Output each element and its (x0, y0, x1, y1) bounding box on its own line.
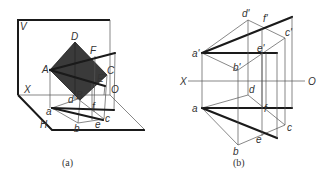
label-a-b: a (192, 103, 198, 114)
projector-b (78, 100, 80, 123)
label-E: E (97, 73, 104, 84)
label-X-b: X (179, 76, 187, 87)
label-b-prime: b' (233, 62, 242, 73)
diagram-canvas: V H X O D A B C E F a b c d e f (a) (0, 0, 326, 182)
label-e-b: e (256, 134, 262, 145)
caption-b: (b) (233, 157, 245, 169)
label-F: F (90, 45, 97, 56)
figure-b: X O a' d' f' c' e' b' a d f c e b (b) (179, 8, 316, 169)
caption-a: (a) (62, 157, 73, 169)
label-B: B (76, 90, 83, 101)
label-C: C (107, 65, 115, 76)
label-a-prime: a' (192, 48, 201, 59)
label-b: b (74, 123, 80, 134)
label-d-prime: d' (242, 8, 251, 19)
label-D: D (71, 31, 78, 42)
label-d: d (68, 94, 74, 105)
figure-a: V H X O D A B C E F a b c d e f (a) (18, 20, 145, 169)
label-e: e (95, 119, 101, 130)
label-a: a (46, 106, 52, 117)
label-O-a: O (111, 84, 119, 95)
h-plane-right-edge (110, 95, 145, 130)
label-O-b: O (308, 76, 316, 87)
label-f-prime: f' (263, 13, 269, 24)
projector-f-end (114, 53, 115, 110)
projection-abcd-prime (202, 20, 285, 70)
label-c: c (105, 113, 110, 124)
label-c-prime: c' (285, 27, 293, 38)
label-d-b: d (249, 84, 255, 95)
label-e-prime: e' (257, 43, 266, 54)
label-V: V (20, 21, 28, 32)
label-H: H (40, 119, 48, 130)
label-c-b: c (287, 122, 292, 133)
label-A: A (41, 64, 49, 75)
projection-abcd-b (202, 95, 285, 145)
label-X-a: X (23, 84, 31, 95)
label-b-b: b (233, 146, 239, 157)
